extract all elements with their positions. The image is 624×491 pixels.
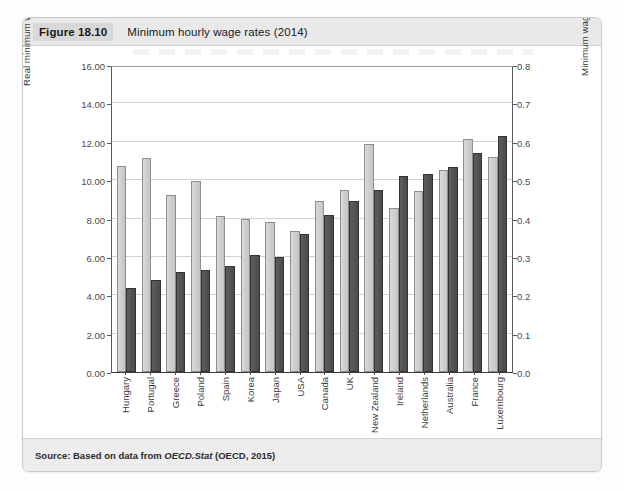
bar-percentage-of-median-wage: [374, 190, 384, 372]
background-artifact: [133, 49, 533, 55]
bar-percentage-of-median-wage: [151, 280, 161, 372]
x-axis-tick-label: Greece: [170, 377, 181, 408]
bar-real-minimum-wage: [117, 166, 127, 372]
x-axis-label-slot: Ireland: [387, 375, 412, 437]
bar-group: [312, 67, 337, 372]
y-axis-left-tick-label: 14.00: [65, 99, 105, 110]
bar-real-minimum-wage: [265, 222, 275, 372]
bar-real-minimum-wage: [340, 190, 350, 372]
y-axis-right-tick-mark: [513, 181, 517, 182]
x-axis-tick-label: Poland: [195, 377, 206, 407]
bar-real-minimum-wage: [290, 231, 300, 372]
x-axis-label-slot: Poland: [188, 375, 213, 437]
y-axis-left-tick-label: 10.00: [65, 176, 105, 187]
x-axis-label-slot: Korea: [237, 375, 262, 437]
bar-group: [461, 67, 486, 372]
bar-group: [238, 67, 263, 372]
x-axis-tick-mark: [399, 371, 400, 375]
x-axis-tick-mark: [125, 371, 126, 375]
x-axis-tick-label: USA: [294, 377, 305, 397]
bar-real-minimum-wage: [439, 170, 449, 372]
x-axis-label-slot: Hungary: [113, 375, 138, 437]
x-axis-label-slot: Netherlands: [412, 375, 437, 437]
bar-percentage-of-median-wage: [324, 215, 334, 372]
bar-percentage-of-median-wage: [250, 255, 260, 372]
x-axis-tick-label: Portugal: [145, 377, 156, 412]
x-axis-tick-label: Canada: [319, 377, 330, 410]
x-axis-label-slot: Portugal: [138, 375, 163, 437]
x-axis-label-slot: Canada: [312, 375, 337, 437]
bar-group: [213, 67, 238, 372]
x-axis-tick-label: Netherlands: [418, 377, 429, 428]
y-axis-right-tick-mark: [513, 104, 517, 105]
bar-percentage-of-median-wage: [300, 234, 310, 372]
source-prefix: Source: Based on data from: [35, 450, 164, 461]
source-italic: OECD.Stat: [164, 450, 212, 461]
y-axis-right-tick-mark: [513, 258, 517, 259]
bar-group: [114, 67, 139, 372]
x-axis-label-slot: Luxembourg: [486, 375, 511, 437]
bar-group: [411, 67, 436, 372]
x-axis-label-slot: Greece: [163, 375, 188, 437]
y-axis-left-tick-label: 2.00: [65, 329, 105, 340]
y-axis-right-tick-label: 0.2: [517, 291, 547, 302]
x-axis-tick-label: Hungary: [120, 377, 131, 413]
x-axis-label-slot: Japan: [262, 375, 287, 437]
y-axis-left-tick-label: 4.00: [65, 291, 105, 302]
bar-real-minimum-wage: [364, 144, 374, 372]
bar-real-minimum-wage: [166, 195, 176, 372]
y-axis-right-tick-label: 0.0: [517, 368, 547, 379]
x-axis-labels: HungaryPortugalGreecePolandSpainKoreaJap…: [111, 375, 513, 437]
bar-group: [436, 67, 461, 372]
bar-percentage-of-median-wage: [423, 174, 433, 372]
x-axis-tick-mark: [250, 371, 251, 375]
bar-percentage-of-median-wage: [225, 266, 235, 372]
x-axis-tick-mark: [275, 371, 276, 375]
x-axis-tick-label: Ireland: [394, 377, 405, 406]
x-axis-label-slot: New Zealand: [362, 375, 387, 437]
x-axis-tick-mark: [175, 371, 176, 375]
bar-real-minimum-wage: [191, 181, 201, 372]
figure-title: Minimum hourly wage rates (2014): [127, 26, 307, 38]
x-axis-tick-label: France: [468, 377, 479, 407]
figure-header: Figure 18.10 Minimum hourly wage rates (…: [23, 18, 601, 46]
y-axis-left-tick-label: 12.00: [65, 137, 105, 148]
x-axis-tick-mark: [200, 371, 201, 375]
figure-card: Figure 18.10 Minimum hourly wage rates (…: [22, 17, 602, 472]
y-axis-left-title: Real minimum wage ($ at 2014 prices PPPs…: [22, 17, 32, 86]
bar-group: [188, 67, 213, 372]
bar-group: [337, 67, 362, 372]
x-axis-tick-mark: [324, 371, 325, 375]
bar-percentage-of-median-wage: [275, 257, 285, 372]
y-axis-right-tick-label: 0.1: [517, 329, 547, 340]
y-axis-right-tick-mark: [513, 296, 517, 297]
x-axis-label-slot: USA: [287, 375, 312, 437]
y-axis-right-tick-mark: [513, 143, 517, 144]
y-axis-right-tick-label: 0.5: [517, 176, 547, 187]
bar-real-minimum-wage: [389, 208, 399, 372]
x-axis-tick-mark: [424, 371, 425, 375]
y-axis-left-tick-label: 8.00: [65, 214, 105, 225]
x-axis-tick-label: UK: [344, 377, 355, 390]
source-suffix: (OECD, 2015): [212, 450, 275, 461]
y-axis-right-tick-label: 0.8: [517, 61, 547, 72]
x-axis-label-slot: France: [461, 375, 486, 437]
y-axis-right-tick-mark: [513, 373, 517, 374]
y-axis-right-tick-label: 0.7: [517, 99, 547, 110]
bar-groups: [112, 67, 512, 372]
bar-percentage-of-median-wage: [126, 288, 136, 372]
y-axis-right-tick-label: 0.6: [517, 137, 547, 148]
x-axis-tick-mark: [374, 371, 375, 375]
bar-percentage-of-median-wage: [498, 136, 508, 372]
x-axis-tick-mark: [474, 371, 475, 375]
x-axis-tick-label: Luxembourg: [493, 377, 504, 430]
y-axis-right-tick-label: 0.4: [517, 214, 547, 225]
x-axis-tick-mark: [349, 371, 350, 375]
bar-group: [287, 67, 312, 372]
chart-area: Real minimum wage ($ at 2014 prices PPPs…: [23, 46, 601, 438]
x-axis-tick-mark: [150, 371, 151, 375]
bar-real-minimum-wage: [463, 139, 473, 372]
figure-footer: Source: Based on data from OECD.Stat (OE…: [23, 438, 601, 472]
bar-percentage-of-median-wage: [473, 153, 483, 372]
y-axis-right-tick-mark: [513, 66, 517, 67]
